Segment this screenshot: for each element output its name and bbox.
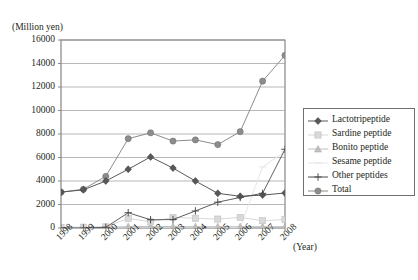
- data-point: [170, 138, 176, 144]
- data-point: [315, 132, 321, 138]
- legend-label: Total: [329, 183, 351, 195]
- legend-label: Sesame peptide: [329, 155, 391, 167]
- data-point: [282, 216, 288, 222]
- legend-item[interactable]: Bonito peptide: [304, 140, 414, 154]
- legend-marker-icon: [307, 113, 329, 125]
- y-tick-label: 0: [3, 222, 55, 232]
- data-point: [282, 52, 288, 58]
- legend-item[interactable]: Lactotripeptide: [304, 112, 414, 126]
- chart-figure: (Million yen) (Year) 0200040006000800010…: [0, 0, 418, 280]
- y-tick-label: 2000: [3, 199, 55, 209]
- legend-marker-icon: [307, 141, 329, 153]
- data-point: [260, 78, 266, 84]
- legend-item[interactable]: Other peptides: [304, 168, 414, 182]
- data-point: [314, 173, 321, 180]
- legend-label: Bonito peptide: [329, 141, 388, 153]
- y-tick-label: 10000: [3, 105, 55, 115]
- chart-legend: LactotripeptideSardine peptideBonito pep…: [303, 108, 415, 196]
- data-point: [315, 188, 321, 194]
- data-point: [237, 129, 243, 135]
- legend-item[interactable]: Sesame peptide: [304, 154, 414, 168]
- legend-marker-icon: [307, 169, 329, 181]
- y-tick-label: 6000: [3, 152, 55, 162]
- data-point: [148, 130, 154, 136]
- legend-marker-icon: [307, 127, 329, 139]
- data-point: [260, 218, 266, 224]
- y-tick-label: 12000: [3, 81, 55, 91]
- data-point: [215, 216, 221, 222]
- y-tick-label: 14000: [3, 58, 55, 68]
- y-tick-label: 4000: [3, 175, 55, 185]
- legend-label: Sardine peptide: [329, 127, 391, 139]
- data-point: [125, 136, 131, 142]
- legend-item[interactable]: Total: [304, 182, 414, 196]
- y-tick-label: 16000: [3, 34, 55, 44]
- legend-label: Lactotripeptide: [329, 113, 390, 125]
- data-point: [315, 118, 322, 125]
- legend-label: Other peptides: [329, 169, 388, 181]
- legend-marker-icon: [307, 183, 329, 195]
- data-point: [192, 215, 198, 221]
- legend-item[interactable]: Sardine peptide: [304, 126, 414, 140]
- data-point: [237, 214, 243, 220]
- data-point: [215, 141, 221, 147]
- legend-marker-icon: [307, 155, 329, 167]
- data-point: [192, 137, 198, 143]
- y-tick-label: 8000: [3, 128, 55, 138]
